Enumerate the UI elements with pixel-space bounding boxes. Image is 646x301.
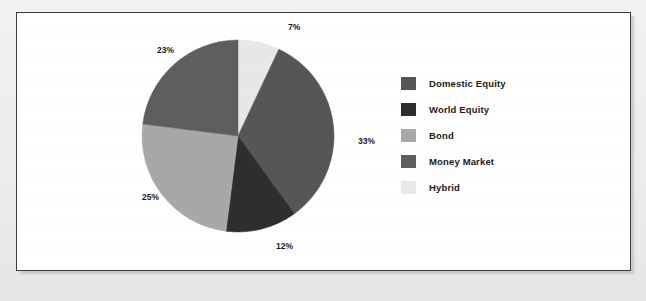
figure-frame: 7%33%12%25%23% Domestic EquityWorld Equi… — [16, 12, 631, 271]
pie-slice-label: 7% — [288, 22, 301, 32]
legend-item-label: Domestic Equity — [429, 78, 506, 89]
legend-item: Hybrid — [401, 174, 601, 200]
legend-item-label: Bond — [429, 130, 454, 141]
legend-item-label: Hybrid — [429, 182, 460, 193]
chart-legend: Domestic EquityWorld EquityBondMoney Mar… — [401, 70, 601, 200]
legend-item: World Equity — [401, 96, 601, 122]
pie-slice-label: 25% — [142, 192, 159, 202]
pie-slice-label: 23% — [157, 45, 174, 55]
legend-color-swatch — [401, 155, 416, 168]
legend-item: Domestic Equity — [401, 70, 601, 96]
legend-item-label: Money Market — [429, 156, 494, 167]
legend-color-swatch — [401, 103, 416, 116]
pie-chart: 7%33%12%25%23% Domestic EquityWorld Equi… — [17, 13, 630, 270]
legend-item-label: World Equity — [429, 104, 489, 115]
legend-color-swatch — [401, 129, 416, 142]
legend-color-swatch — [401, 181, 416, 194]
pie-slice-label: 33% — [358, 136, 375, 146]
legend-color-swatch — [401, 77, 416, 90]
legend-item: Bond — [401, 122, 601, 148]
pie-slice-label: 12% — [276, 241, 293, 251]
pie-slice-group — [142, 40, 334, 232]
legend-item: Money Market — [401, 148, 601, 174]
pie-slice — [142, 124, 238, 231]
